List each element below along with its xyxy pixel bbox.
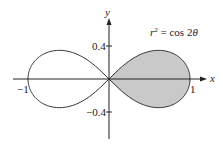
xtick-label-neg-1: −1 (17, 83, 29, 95)
xtick-label-1: 1 (190, 83, 196, 95)
y-axis-label: y (104, 6, 110, 18)
plot-area: x y 0.4 −0.4 −1 1 r2 = cos 2θ (0, 0, 223, 158)
y-axis-arrow-icon (107, 18, 112, 25)
x-axis-label: x (209, 72, 215, 84)
x-axis-arrow-icon (200, 77, 207, 82)
ytick-label-neg-0.4: −0.4 (86, 106, 106, 118)
lemniscate-figure: x y 0.4 −0.4 −1 1 r2 = cos 2θ (0, 0, 223, 158)
ytick-label-0.4: 0.4 (92, 40, 106, 52)
curve-equation-label: r2 = cos 2θ (150, 26, 198, 38)
